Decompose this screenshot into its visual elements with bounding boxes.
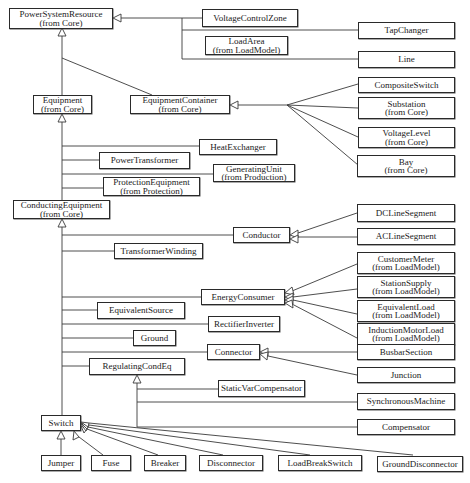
class-name: Jumper <box>48 459 75 468</box>
class-voltage-control-zone: VoltageControlZone <box>202 9 298 27</box>
class-equivalent-load: EquivalentLoad (from LoadModel) <box>357 300 455 322</box>
class-static-var-compensator: StaticVarCompensator <box>218 380 305 397</box>
class-generating-unit: GeneratingUnit (from Production) <box>213 164 295 182</box>
class-name: HeatExchanger <box>210 143 265 152</box>
class-name: TransformerWinding <box>121 247 197 256</box>
class-heat-exchanger: HeatExchanger <box>199 139 277 155</box>
class-switch: Switch <box>41 415 81 431</box>
class-fuse: Fuse <box>91 455 131 471</box>
class-package: (from LoadModel) <box>372 334 440 343</box>
class-ac-line-segment: ACLineSegment <box>357 228 455 245</box>
class-name: ACLineSegment <box>376 232 437 241</box>
class-package: (from Protection) <box>120 187 183 196</box>
class-name: Connector <box>215 348 253 357</box>
class-package: (from Core) <box>41 105 84 114</box>
class-name: Breaker <box>151 459 179 468</box>
class-name: PowerTransformer <box>111 156 179 165</box>
class-name: Ground <box>141 334 169 343</box>
class-package: (from LoadModel) <box>372 311 440 320</box>
class-name: BusbarSection <box>380 348 433 357</box>
class-name: SynchronousMachine <box>367 397 446 406</box>
class-line: Line <box>358 51 455 68</box>
class-power-system-resource: PowerSystemResource (from Core) <box>9 8 113 29</box>
class-induction-motor-load: InductionMotorLoad (from LoadModel) <box>357 323 455 345</box>
class-name: EquivalentSource <box>109 306 173 315</box>
class-name: Compensator <box>382 423 430 432</box>
class-package: (from LoadModel) <box>213 46 281 55</box>
class-transformer-winding: TransformerWinding <box>114 243 203 259</box>
class-name: CompositeSwitch <box>374 81 438 90</box>
class-name: Conductor <box>243 231 281 240</box>
class-name: GroundDisconnector <box>382 460 457 469</box>
class-package: (from Production) <box>221 173 286 182</box>
class-breaker: Breaker <box>144 455 186 471</box>
class-voltage-level: VoltageLevel (from Core) <box>358 127 455 148</box>
class-busbar-section: BusbarSection <box>357 344 455 360</box>
class-package: (from LoadModel) <box>372 287 440 296</box>
class-package: (from Core) <box>384 166 427 175</box>
class-name: Switch <box>48 419 73 428</box>
class-rectifier-inverter: RectifierInverter <box>208 316 280 332</box>
class-junction: Junction <box>357 367 455 383</box>
class-name: LoadBreakSwitch <box>288 459 353 468</box>
class-package: (from Core) <box>40 210 83 219</box>
class-protection-equipment: ProtectionEquipment (from Protection) <box>103 177 200 196</box>
class-composite-switch: CompositeSwitch <box>358 77 455 93</box>
class-equivalent-source: EquivalentSource <box>97 302 185 319</box>
class-bay: Bay (from Core) <box>357 155 455 177</box>
class-substation: Substation (from Core) <box>358 97 455 119</box>
class-customer-meter: CustomerMeter (from LoadModel) <box>357 252 455 274</box>
class-equipment-container: EquipmentContainer (from Core) <box>130 95 230 114</box>
class-jumper: Jumper <box>41 455 81 471</box>
class-load-area: LoadArea (from LoadModel) <box>205 36 288 55</box>
class-name: EnergyConsumer <box>212 293 275 302</box>
class-package: (from Core) <box>385 138 428 147</box>
class-name: Line <box>398 55 415 64</box>
class-package: (from Core) <box>158 105 201 114</box>
class-package: (from Core) <box>385 108 428 117</box>
class-disconnector: Disconnector <box>199 455 263 471</box>
class-dc-line-segment: DCLineSegment <box>357 204 455 222</box>
class-name: TapChanger <box>385 26 429 35</box>
class-power-transformer: PowerTransformer <box>99 152 190 169</box>
class-conductor: Conductor <box>233 227 290 243</box>
class-name: RegulatingCondEq <box>103 362 172 371</box>
class-synchronous-machine: SynchronousMachine <box>357 393 455 410</box>
class-name: Fuse <box>102 459 119 468</box>
class-ground-disconnector: GroundDisconnector <box>377 456 463 472</box>
class-conducting-equipment: ConductingEquipment (from Core) <box>13 200 110 219</box>
uml-class-diagram: PowerSystemResource (from Core) VoltageC… <box>0 0 470 483</box>
class-package: (from Core) <box>39 19 82 28</box>
class-name: StaticVarCompensator <box>221 384 302 393</box>
class-package: (from LoadModel) <box>372 263 440 272</box>
class-name: Disconnector <box>207 459 255 468</box>
class-compensator: Compensator <box>357 419 455 435</box>
class-regulating-cond-eq: RegulatingCondEq <box>89 358 185 375</box>
class-connector: Connector <box>207 344 260 360</box>
class-name: Junction <box>391 371 422 380</box>
class-energy-consumer: EnergyConsumer <box>201 289 285 305</box>
class-name: RectifierInverter <box>214 320 274 329</box>
class-name: VoltageControlZone <box>213 14 286 23</box>
class-name: DCLineSegment <box>376 209 437 218</box>
class-station-supply: StationSupply (from LoadModel) <box>357 276 455 298</box>
class-ground: Ground <box>133 330 176 346</box>
class-equipment: Equipment (from Core) <box>33 95 92 114</box>
class-tap-changer: TapChanger <box>358 22 455 39</box>
class-load-break-switch: LoadBreakSwitch <box>278 455 362 471</box>
